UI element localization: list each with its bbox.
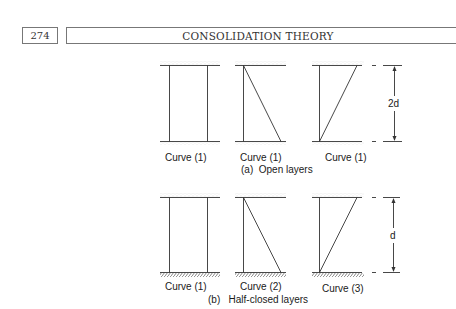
curve-label-b1: Curve (1) bbox=[165, 281, 207, 292]
diagram-a2 bbox=[235, 61, 286, 145]
drainage-layer-top bbox=[235, 193, 286, 197]
dimension-label-d: d bbox=[390, 230, 396, 241]
drainage-layer-top bbox=[160, 193, 220, 197]
caption-a: (a) Open layers bbox=[241, 164, 313, 175]
diagram-b1 bbox=[160, 193, 220, 277]
drainage-layer-top bbox=[312, 193, 364, 197]
drainage-layer-top bbox=[312, 61, 364, 65]
curve-label-a2: Curve (1) bbox=[240, 152, 282, 163]
curve-label-b2: Curve (2) bbox=[240, 281, 282, 292]
dimension-label-2d: 2d bbox=[388, 98, 399, 109]
curve-label-b3: Curve (3) bbox=[322, 283, 364, 294]
impermeable-layer-bottom bbox=[160, 273, 220, 277]
caption-b: (b) Half-closed layers bbox=[208, 294, 308, 305]
curve-label-a1: Curve (1) bbox=[165, 152, 207, 163]
diagram-b3 bbox=[312, 193, 364, 277]
diagram-a1 bbox=[160, 61, 220, 145]
row-b-half-closed-layers: d Curve (1) Curve (2) Curve (3) (b) Half… bbox=[160, 193, 400, 305]
diagram-b2 bbox=[235, 193, 286, 277]
diagram-a3 bbox=[312, 61, 364, 145]
drainage-layer-top bbox=[235, 61, 286, 65]
impermeable-layer-bottom bbox=[235, 273, 286, 277]
row-a-open-layers: 2d Curve (1) Curve (1) Curve (1) (a) Ope… bbox=[160, 61, 402, 175]
impermeable-layer-bottom bbox=[312, 273, 364, 277]
curve-label-a3: Curve (1) bbox=[325, 152, 367, 163]
dimension-d: d bbox=[372, 198, 400, 273]
dimension-2d: 2d bbox=[372, 66, 402, 142]
drainage-layer-top bbox=[160, 61, 220, 65]
